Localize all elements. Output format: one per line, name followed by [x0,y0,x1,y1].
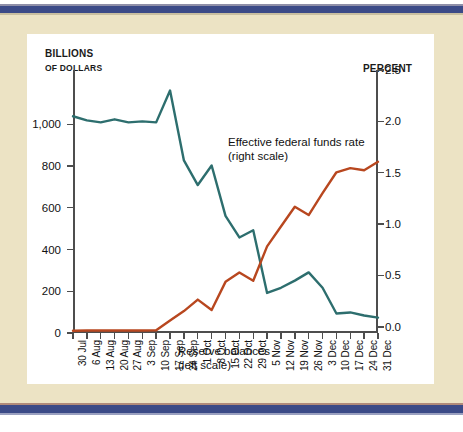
data-series-lines [73,70,378,333]
x-tick-label: 27 Aug [132,340,143,371]
right-tick-mark [378,121,384,122]
x-tick-label: 17 Dec [354,340,365,371]
chart-area: BILLIONS OF DOLLARS PERCENT 020040060080… [27,34,434,384]
x-tick-label: 20 Aug [119,340,130,371]
chart-figure: BILLIONS OF DOLLARS PERCENT 020040060080… [0,0,463,432]
x-tick-mark [336,333,337,339]
x-tick-label: 30 Jul [77,340,88,366]
left-axis-title-line1: BILLIONS [45,48,93,59]
x-tick-label: 31 Dec [382,340,393,371]
x-tick-label: 13 Aug [105,340,116,371]
x-tick-mark [197,333,198,339]
x-tick-mark [142,333,143,339]
annotation-federal-funds-rate: Effective federal funds rate (right scal… [228,136,365,163]
left-tick-label: 600 [17,202,61,214]
x-tick-label: 24 Dec [368,340,379,371]
x-tick-mark [100,333,101,339]
x-tick-label: 6 Aug [91,340,102,365]
right-tick-label: 0.5 [385,269,425,281]
x-tick-label: 10 Dec [340,340,351,371]
left-tick-label: 0 [17,327,61,339]
x-tick-mark [169,333,170,339]
x-tick-mark [377,333,378,339]
x-tick-mark [350,333,351,339]
right-tick-mark [378,223,384,224]
x-tick-mark [363,333,364,339]
x-tick-mark [253,333,254,339]
right-tick-mark [378,275,384,276]
top-rule-edge [0,13,463,15]
x-tick-label: 12 Nov [285,340,296,371]
left-tick-label: 400 [17,244,61,256]
x-tick-mark [239,333,240,339]
x-tick-mark [86,333,87,339]
x-tick-mark [225,333,226,339]
x-tick-mark [294,333,295,339]
x-tick-mark [211,333,212,339]
right-tick-label: 2.5 [385,64,425,76]
right-tick-mark [378,172,384,173]
x-tick-label: 26 Nov [313,340,324,371]
x-tick-label: 3 Sep [146,340,157,366]
right-tick-label: 1.5 [385,167,425,179]
top-rule [0,6,463,13]
bottom-rule [0,405,463,413]
x-tick-label: 5 Nov [271,340,282,366]
right-tick-label: 2.0 [385,115,425,127]
left-tick-label: 1,000 [17,118,61,130]
left-tick-label: 200 [17,285,61,297]
x-tick-mark [308,333,309,339]
right-tick-mark [378,326,384,327]
x-tick-mark [114,333,115,339]
x-tick-mark [155,333,156,339]
annotation-reserves-line2: (left scale) [178,359,231,371]
plot-region: 02004006008001,000 0.00.51.01.52.02.5 30… [73,70,378,333]
x-tick-mark [183,333,184,339]
bottom-rule-edge [0,413,463,415]
x-tick-label: 19 Nov [299,340,310,371]
x-tick-mark [72,333,73,339]
x-tick-label: 10 Sep [160,340,171,371]
right-tick-label: 0.0 [385,321,425,333]
right-tick-label: 1.0 [385,218,425,230]
annotation-ffr-line1: Effective federal funds rate [228,136,365,148]
x-tick-mark [266,333,267,339]
x-tick-mark [128,333,129,339]
right-tick-mark [378,69,384,70]
x-tick-mark [322,333,323,339]
annotation-reserves-line1: Reserve balances [178,345,270,357]
x-tick-mark [280,333,281,339]
annotation-reserve-balances: Reserve balances (left scale) [178,345,270,372]
left-tick-label: 800 [17,160,61,172]
annotation-ffr-line2: (right scale) [228,150,288,162]
x-tick-label: 3 Dec [327,340,338,366]
